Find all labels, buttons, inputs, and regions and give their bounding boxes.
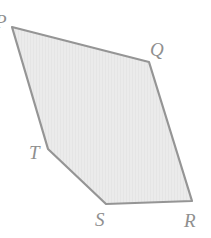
vertex-label-p: P	[0, 12, 7, 31]
vertex-label-q: Q	[150, 40, 164, 59]
vertex-label-r: R	[184, 211, 196, 230]
vertex-label-s: S	[95, 210, 105, 229]
vertex-label-t: T	[29, 143, 40, 162]
geometry-figure: P Q T S R	[0, 0, 211, 238]
pentagon-drawing	[0, 0, 211, 238]
